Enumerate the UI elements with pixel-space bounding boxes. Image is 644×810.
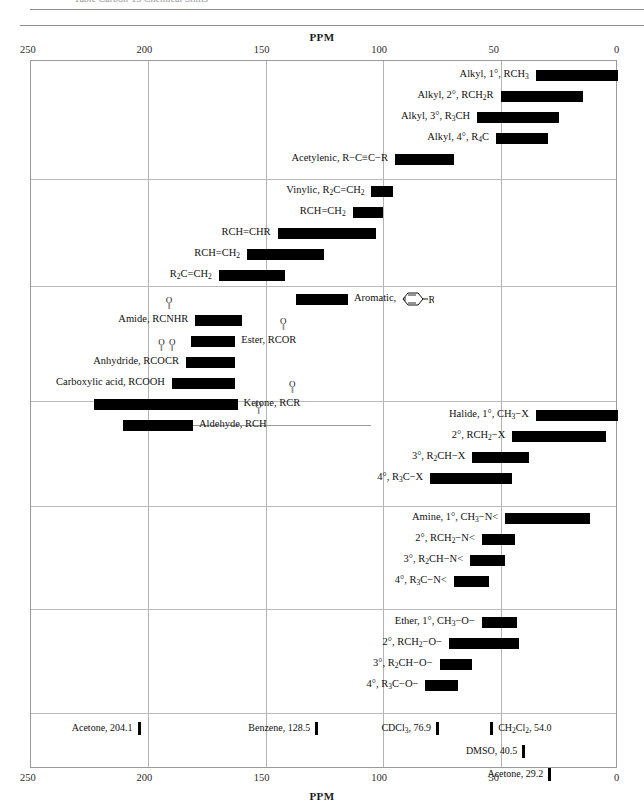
carbonyl-oxygen-glyph: O‖ xyxy=(166,339,178,352)
shift-row-label: Acetylenic, R−C≡C−R xyxy=(291,151,388,165)
shift-row-label: Aromatic, xyxy=(354,291,396,305)
shift-row-label: Alkyl, 4°, R4C xyxy=(427,130,489,147)
section-divider-2 xyxy=(31,286,616,287)
shift-range-bar xyxy=(512,431,606,442)
solvent-tick-mark xyxy=(490,722,493,735)
shift-range-bar xyxy=(536,70,618,81)
shift-row-label: 2°, RCH2−N< xyxy=(415,531,474,548)
shift-row-label: Halide, 1°, CH3−X xyxy=(449,407,529,424)
benzene-ring-icon: R xyxy=(400,291,422,306)
header-rule-upper xyxy=(30,9,644,10)
shift-range-bar xyxy=(395,154,454,165)
shift-range-bar xyxy=(505,513,590,524)
shift-range-bar xyxy=(247,249,324,260)
chart-row: 2°, RCH2−N< xyxy=(31,529,616,550)
chart-row: Halide, 1°, CH3−X xyxy=(31,405,616,426)
chart-row: RCH=CHR xyxy=(31,223,616,244)
shift-range-bar xyxy=(430,473,512,484)
chart-row: Carboxylic acid, RCOOH xyxy=(31,373,616,394)
chart-row: Anhydride, RCOCRO‖O‖ xyxy=(31,352,616,373)
section-divider-1 xyxy=(31,179,616,180)
chart-row: Alkyl, 4°, R4C xyxy=(31,128,616,149)
section-divider-4 xyxy=(31,506,616,507)
shift-row-label: Vinylic, R2C=CH2 xyxy=(286,183,364,200)
chart-row: Ether, 1°, CH3−O− xyxy=(31,612,616,633)
chart-row: 4°, R3C−N< xyxy=(31,571,616,592)
shift-range-bar xyxy=(219,270,285,281)
shift-row-label: Alkyl, 3°, R3CH xyxy=(401,109,470,126)
shift-range-bar xyxy=(440,659,473,670)
shift-range-bar xyxy=(482,534,515,545)
axis-tick-label-200: 200 xyxy=(136,44,152,55)
shift-range-bar xyxy=(425,680,458,691)
shift-row-label: 4°, R3C−O− xyxy=(367,677,419,694)
shift-range-bar xyxy=(477,112,559,123)
shift-row-label: Ether, 1°, CH3−O− xyxy=(395,614,475,631)
shift-range-bar xyxy=(186,357,235,368)
shift-range-bar xyxy=(482,617,517,628)
chart-row: RCH=CH2 xyxy=(31,202,616,223)
clipped-header-text: Table Carbon-13 Chemical Shifts xyxy=(74,0,208,4)
section-divider-6 xyxy=(31,713,616,714)
shift-range-bar xyxy=(278,228,377,239)
chart-row: 4°, R3C−O− xyxy=(31,675,616,696)
header-rule-lower xyxy=(20,25,644,26)
shift-range-bar xyxy=(191,336,236,347)
shift-row-label: Amine, 1°, CH3−N< xyxy=(412,510,498,527)
axis-tick-label-150: 150 xyxy=(254,44,270,55)
axis-title-top: PPM xyxy=(0,31,644,43)
clipped-page-header: Table Carbon-13 Chemical Shifts xyxy=(0,0,644,12)
chart-row: Amide, RCNHRO‖ xyxy=(31,310,616,331)
shift-row-label: 4°, R3C−N< xyxy=(395,573,447,590)
shift-row-label: 4°, R3C−X xyxy=(377,470,423,487)
shift-range-bar xyxy=(296,294,348,305)
chart-row: 3°, R2CH−X xyxy=(31,447,616,468)
solvent-label: DMSO, 40.5 xyxy=(466,745,517,756)
shift-row-label: RCH=CH2 xyxy=(194,246,240,263)
chart-row: R2C=CH2 xyxy=(31,265,616,286)
chart-row: Ester, RCORO‖ xyxy=(31,331,616,352)
chart-row: 3°, R2CH−N< xyxy=(31,550,616,571)
shift-row-label: R2C=CH2 xyxy=(170,267,212,284)
chart-row: Alkyl, 1°, RCH3 xyxy=(31,65,616,86)
shift-row-label: RCH=CH2 xyxy=(300,204,346,221)
shift-range-bar xyxy=(496,133,548,144)
chart-row: Alkyl, 3°, R3CH xyxy=(31,107,616,128)
solvent-reference: Acetone, 29.2 xyxy=(31,767,618,783)
shift-row-label: 2°, RCH2−X xyxy=(452,428,506,445)
solvent-reference: DMSO, 40.5 xyxy=(31,744,618,760)
svg-text:R: R xyxy=(428,294,434,305)
carbonyl-oxygen-glyph: O‖ xyxy=(277,318,289,331)
shift-row-label: Alkyl, 2°, RCH2R xyxy=(417,88,493,105)
solvent-tick-mark xyxy=(548,768,551,781)
solvent-tick-mark xyxy=(522,745,525,758)
shift-row-label: Anhydride, RCOCR xyxy=(93,354,179,368)
chart-row: Acetylenic, R−C≡C−R xyxy=(31,149,616,170)
axis-tick-label-250: 250 xyxy=(20,44,36,55)
carbonyl-oxygen-glyph: O‖ xyxy=(163,297,175,310)
chart-row: Alkyl, 2°, RCH2R xyxy=(31,86,616,107)
shift-range-bar xyxy=(449,638,519,649)
axis-title-bottom: PPM xyxy=(0,790,644,802)
solvent-label: Acetone, 29.2 xyxy=(487,768,543,779)
shift-row-label: 3°, R2CH−O− xyxy=(373,656,432,673)
shift-range-bar xyxy=(536,410,618,421)
chart-row: RCH=CH2 xyxy=(31,244,616,265)
shift-range-bar xyxy=(472,452,528,463)
axis-tick-label-50: 50 xyxy=(489,44,500,55)
shift-row-label: Amide, RCNHR xyxy=(118,312,188,326)
chart-row: 4°, R3C−X xyxy=(31,468,616,489)
shift-range-bar xyxy=(470,555,505,566)
shift-row-label: 3°, R2CH−X xyxy=(412,449,466,466)
shift-row-label: Alkyl, 1°, RCH3 xyxy=(460,67,529,84)
chart-row: Vinylic, R2C=CH2 xyxy=(31,181,616,202)
shift-range-bar xyxy=(454,576,489,587)
chart-row: Aromatic,R xyxy=(31,289,616,310)
axis-tick-label-100: 100 xyxy=(371,44,387,55)
shift-range-bar xyxy=(353,207,384,218)
carbonyl-oxygen-glyph: O‖ xyxy=(286,381,298,394)
shift-range-bar xyxy=(195,315,242,326)
solvent-label: CH2Cl2, 54.0 xyxy=(498,722,551,735)
shift-row-label: Ester, RCOR xyxy=(241,333,296,347)
shift-row-label: RCH=CHR xyxy=(221,225,270,239)
